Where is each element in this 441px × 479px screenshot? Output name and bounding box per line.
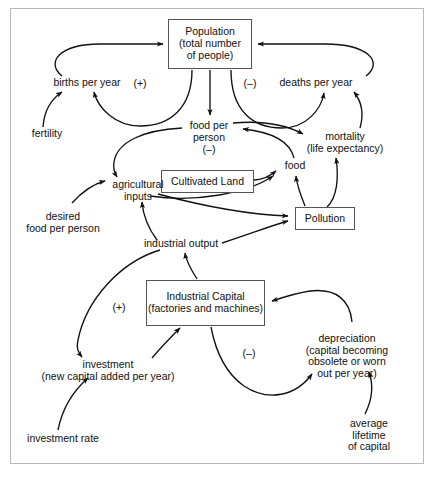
label-average-lifetime-of-capital: average lifetime of capital bbox=[333, 418, 405, 453]
sign-food-per-person-negative: (–) bbox=[203, 143, 216, 155]
label-depreciation: depreciation (capital becoming obsolete … bbox=[300, 333, 394, 379]
label-food: food bbox=[285, 160, 305, 172]
node-population[interactable]: Population (total number of people) bbox=[168, 19, 252, 69]
label-investment: investment (new capital added per year) bbox=[41, 359, 174, 382]
diagram-page: Population (total number of people) Cult… bbox=[0, 0, 441, 479]
edge-industrial-capital-to-industrial-output bbox=[185, 253, 197, 279]
label-food-per-person: food per person bbox=[190, 120, 229, 143]
label-births-per-year: births per year bbox=[53, 77, 120, 89]
node-industrial-capital[interactable]: Industrial Capital (factories and machin… bbox=[146, 280, 265, 326]
edge-industrial-output-to-pollution bbox=[222, 221, 288, 243]
edge-agricultural-inputs-to-pollution bbox=[158, 194, 288, 216]
sign-deaths-negative: (–) bbox=[244, 77, 257, 89]
edge-births-to-population bbox=[55, 44, 163, 76]
edge-investment-to-industrial-capital bbox=[152, 328, 180, 358]
label-desired-food-per-person: desired food per person bbox=[26, 211, 100, 234]
label-industrial-output: industrial output bbox=[144, 238, 218, 250]
sign-births-positive: (+) bbox=[133, 77, 146, 89]
label-mortality: mortality (life expectancy) bbox=[307, 131, 383, 154]
label-fertility: fertility bbox=[32, 128, 62, 140]
causal-loop-arrows bbox=[0, 0, 441, 479]
node-pollution[interactable]: Pollution bbox=[295, 207, 355, 230]
edge-mortality-to-deaths bbox=[354, 92, 362, 128]
label-investment-rate: investment rate bbox=[27, 433, 99, 445]
label-agricultural-inputs: agricultural inputs bbox=[112, 179, 163, 202]
sign-capital-positive: (+) bbox=[112, 301, 125, 313]
edge-desired-food-to-agricultural-inputs bbox=[72, 181, 105, 203]
label-deaths-per-year: deaths per year bbox=[280, 77, 353, 89]
edge-industrial-capital-to-depreciation bbox=[211, 327, 312, 395]
sign-depreciation-negative: (–) bbox=[243, 347, 256, 359]
edge-investment-rate-to-investment bbox=[58, 378, 88, 430]
node-cultivated-land[interactable]: Cultivated Land bbox=[161, 170, 254, 193]
edge-food-per-person-to-mortality bbox=[233, 122, 303, 134]
edge-industrial-output-to-agricultural-inputs bbox=[142, 202, 157, 240]
edge-pollution-to-mortality bbox=[327, 158, 337, 207]
edge-fertility-to-births bbox=[43, 92, 62, 127]
edge-pollution-to-food bbox=[296, 176, 305, 206]
edge-food-to-food-per-person bbox=[243, 129, 294, 158]
edge-cultivated-land-to-food bbox=[254, 171, 276, 180]
edge-depreciation-to-industrial-capital bbox=[272, 291, 352, 322]
edge-deaths-to-population bbox=[258, 44, 373, 76]
